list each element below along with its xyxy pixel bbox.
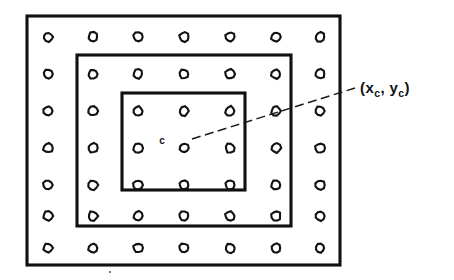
grid-circle bbox=[225, 69, 235, 78]
grid-circle bbox=[88, 106, 98, 115]
grid-circle bbox=[89, 70, 98, 78]
grid-circle bbox=[316, 69, 325, 78]
grid-circle bbox=[179, 244, 188, 253]
grid-circle bbox=[226, 244, 235, 253]
grid-circle bbox=[133, 244, 143, 252]
grid-circle bbox=[134, 106, 143, 115]
grid-circle bbox=[316, 32, 324, 42]
grid-circle bbox=[315, 144, 325, 153]
grid-circle bbox=[225, 181, 234, 190]
grid-circle bbox=[133, 32, 142, 41]
grid-circle bbox=[44, 33, 53, 42]
center-point-marker-label: c bbox=[159, 135, 165, 146]
grid-circle bbox=[44, 70, 53, 79]
grid-circle bbox=[134, 211, 143, 221]
grid-circle bbox=[316, 212, 325, 221]
figure-background bbox=[0, 0, 454, 280]
grid-circle bbox=[43, 211, 53, 221]
grid-circle bbox=[43, 181, 53, 189]
grid-circle bbox=[179, 211, 188, 220]
grid-circle bbox=[272, 143, 282, 153]
grid-circle bbox=[133, 181, 143, 190]
grid-circle bbox=[180, 180, 189, 189]
nested-window-grid-figure: c (xc, yc) bbox=[0, 0, 454, 280]
grid-circle bbox=[43, 244, 53, 253]
coord-label-open: (x bbox=[360, 79, 374, 96]
grid-circle bbox=[271, 33, 281, 42]
grid-circle bbox=[272, 243, 280, 252]
grid-circle bbox=[89, 143, 98, 152]
grid-circle bbox=[43, 106, 52, 115]
coord-label-close: ) bbox=[405, 79, 410, 96]
grid-circle bbox=[88, 181, 98, 190]
grid-circle bbox=[315, 181, 324, 190]
coord-label-middle: , y bbox=[380, 79, 398, 96]
grid-circle bbox=[180, 144, 189, 152]
grid-circle bbox=[179, 32, 188, 42]
grid-circle bbox=[133, 144, 143, 153]
grid-circle bbox=[89, 32, 97, 41]
figure-canvas: c (xc, yc) bbox=[0, 0, 454, 280]
grid-circle bbox=[225, 33, 234, 42]
grid-circle bbox=[180, 70, 188, 79]
grid-circle bbox=[225, 211, 234, 220]
grid-circle bbox=[316, 244, 324, 253]
grid-circle bbox=[226, 144, 235, 153]
grid-circle bbox=[316, 107, 325, 116]
grid-circle bbox=[180, 106, 189, 116]
grid-circle bbox=[134, 69, 142, 79]
grid-circle bbox=[271, 180, 280, 189]
grid-circle bbox=[271, 69, 280, 78]
grid-circle bbox=[43, 143, 53, 152]
grid-circle bbox=[88, 244, 97, 253]
scan-speck bbox=[109, 271, 111, 273]
grid-circle bbox=[271, 211, 280, 220]
